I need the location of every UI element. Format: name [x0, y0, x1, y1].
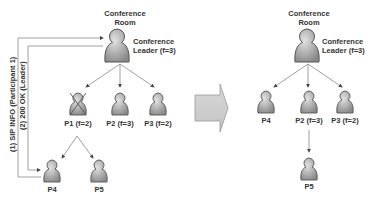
edge-p1-p4 [62, 136, 77, 158]
before-diagram: Conference Room Conference Leader (f=3) … [8, 9, 176, 194]
edge-leader-p3 [308, 64, 342, 87]
participant-p5-label: P5 [94, 185, 103, 194]
sip-info-path [18, 38, 103, 177]
edge-leader-p3 [120, 64, 154, 87]
leader-icon [295, 29, 319, 62]
participant-p4-label: P4 [261, 116, 271, 125]
participant-p5-label: P5 [304, 182, 313, 191]
leader-label: Conference [133, 37, 174, 46]
participant-p2-label: P2 (f=3) [106, 119, 134, 128]
leader-label: Leader (f=3) [322, 46, 365, 55]
leader-label: Leader (f=3) [133, 46, 176, 55]
transition-arrow-icon [195, 84, 228, 132]
participant-p3-label: P3 (f=2) [331, 116, 359, 125]
edge-leader-p1 [86, 64, 120, 87]
leader-icon [105, 29, 129, 62]
sip-info-label: (1) SIP INFO (Participant 1) [8, 56, 17, 152]
room-label: Conference [288, 9, 329, 18]
room-label: Room [114, 18, 136, 27]
participant-p5-icon [91, 160, 107, 182]
participant-p2-icon [112, 93, 128, 115]
edge-p1-p5 [77, 136, 93, 158]
ok-response-path [28, 46, 103, 170]
diagram-canvas: Conference Room Conference Leader (f=3) … [0, 0, 373, 204]
participant-p4-icon [44, 160, 60, 182]
participant-p3-icon [337, 91, 353, 113]
participant-p1-label: P1 (f=2) [64, 119, 92, 128]
participant-p3-label: P3 (f=2) [144, 119, 172, 128]
participant-p4-icon [258, 91, 274, 113]
after-diagram: Conference Room Conference Leader (f=3) … [258, 9, 365, 191]
edge-leader-p4 [274, 64, 308, 87]
room-label: Conference [104, 9, 145, 18]
participant-p5-icon [301, 158, 317, 180]
participant-p4-label: P4 [47, 185, 57, 194]
participant-p2-icon [301, 91, 317, 113]
participant-p3-icon [150, 93, 166, 115]
participant-p2-label: P2 (f=3) [295, 116, 323, 125]
ok-response-label: (2) 200 OK (Leader) [18, 61, 27, 130]
room-label: Room [298, 18, 320, 27]
leader-label: Conference [322, 37, 363, 46]
